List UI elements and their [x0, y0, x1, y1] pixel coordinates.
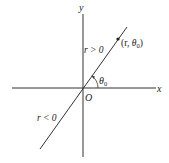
origin-label: O [85, 92, 92, 103]
angle-label: θ0 [99, 75, 107, 87]
point-marker [116, 37, 119, 40]
x-axis-label: x [156, 83, 162, 94]
point-label: (r, θ0) [121, 38, 143, 49]
y-axis-label: y [78, 2, 84, 13]
angle-arc [92, 76, 98, 88]
negative-r-label: r < 0 [37, 113, 57, 123]
positive-r-label: r > 0 [84, 45, 104, 55]
polar-coordinate-diagram: y x O r > 0 r < 0 (r, θ0) θ0 [0, 0, 169, 163]
